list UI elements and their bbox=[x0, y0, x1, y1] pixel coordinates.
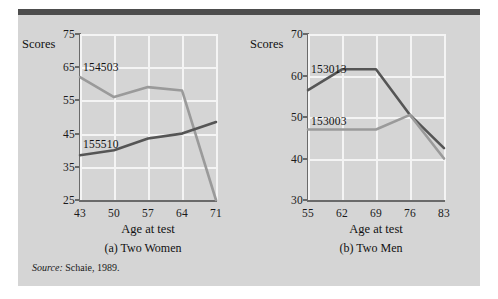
x-axis-tick-label: 83 bbox=[438, 207, 450, 219]
series-label-153003: 153003 bbox=[311, 115, 347, 127]
figure-root: Scores 253545556575435057647115450315551… bbox=[0, 0, 498, 299]
x-axis-title: Age at test bbox=[80, 222, 216, 237]
source-note: Source: Schaie, 1989. bbox=[32, 262, 119, 273]
y-axis-tick-label: 55 bbox=[63, 94, 75, 106]
x-axis-title: Age at test bbox=[308, 222, 444, 237]
y-axis-tick-label: 30 bbox=[291, 194, 303, 206]
gridline-vertical bbox=[444, 34, 446, 200]
x-axis-tick-label: 64 bbox=[176, 207, 188, 219]
y-axis-tick-label: 60 bbox=[291, 70, 303, 82]
source-note-text: Schaie, 1989. bbox=[65, 262, 119, 273]
y-axis-tick-label: 75 bbox=[63, 28, 75, 40]
plot-area: 30405060705562697683153013153003 bbox=[308, 34, 444, 200]
y-axis-tick-label: 45 bbox=[63, 128, 75, 140]
x-axis-tick-label: 57 bbox=[142, 207, 154, 219]
y-axis-title: Scores bbox=[250, 37, 283, 52]
chart-two-women: Scores 253545556575435057647115450315551… bbox=[18, 22, 236, 262]
x-axis-line bbox=[79, 200, 217, 202]
y-axis-tick-label: 65 bbox=[63, 61, 75, 73]
series-line-153013 bbox=[308, 69, 444, 148]
x-axis-tick-label: 76 bbox=[404, 207, 416, 219]
y-axis-tick-label: 25 bbox=[63, 194, 75, 206]
x-axis-tick-label: 62 bbox=[336, 207, 348, 219]
y-axis-tick-label: 70 bbox=[291, 28, 303, 40]
series-label-155510: 155510 bbox=[83, 138, 119, 150]
y-axis-tick-label: 35 bbox=[63, 161, 75, 173]
gridline-vertical bbox=[216, 34, 218, 200]
x-axis-tick-label: 71 bbox=[210, 207, 222, 219]
chart-caption: (a) Two Women bbox=[58, 241, 228, 256]
chart-two-men: Scores 30405060705562697683153013153003 … bbox=[246, 22, 464, 262]
x-axis-tick-label: 69 bbox=[370, 207, 382, 219]
chart-caption: (b) Two Men bbox=[286, 241, 456, 256]
y-axis-title: Scores bbox=[22, 37, 55, 52]
y-axis-tick-label: 40 bbox=[291, 153, 303, 165]
x-axis-tick-label: 55 bbox=[302, 207, 314, 219]
y-axis-tick-label: 50 bbox=[291, 111, 303, 123]
x-axis-line bbox=[307, 200, 445, 202]
series-label-153013: 153013 bbox=[311, 63, 347, 75]
x-axis-tick-label: 50 bbox=[108, 207, 120, 219]
figure-top-rule bbox=[18, 9, 480, 15]
plot-area: 2535455565754350576471154503155510 bbox=[80, 34, 216, 200]
x-axis-tick-label: 43 bbox=[74, 207, 86, 219]
series-label-154503: 154503 bbox=[83, 61, 119, 73]
series-lines bbox=[80, 34, 216, 200]
source-note-label: Source: bbox=[32, 262, 63, 273]
